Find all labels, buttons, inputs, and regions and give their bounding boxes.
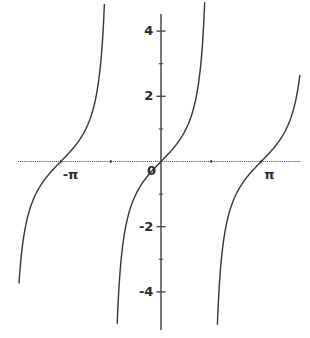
- y-axis-tick-label-neg2: -2: [139, 220, 153, 233]
- origin-label: 0: [147, 164, 156, 177]
- curve-group: [19, 3, 300, 325]
- y-axis-tick-label-2: 2: [144, 89, 153, 102]
- branch-left: [19, 5, 104, 283]
- x-axis-tick-label-pi: π: [264, 168, 274, 181]
- y-axis-tick-label-4: 4: [144, 24, 153, 37]
- x-axis-tick-label-neg-pi: -π: [63, 168, 78, 181]
- axes-group: [18, 14, 301, 330]
- branch-right: [217, 76, 299, 325]
- tangent-function-chart: 4 2 -2 -4 0 -π π: [0, 0, 310, 338]
- y-axis-tick-label-neg4: -4: [139, 285, 153, 298]
